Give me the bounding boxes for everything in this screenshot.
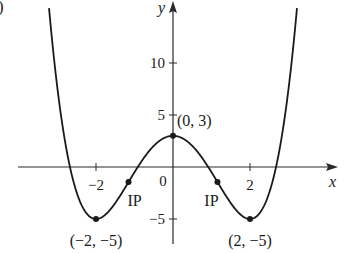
- point-marker: [126, 179, 132, 185]
- point-label: IP: [127, 192, 141, 209]
- x-axis-label: x: [328, 173, 336, 190]
- panel-label: ): [0, 0, 4, 16]
- origin-label: 0: [159, 173, 167, 189]
- point-label: (0, 3): [177, 112, 212, 130]
- point-label: (2, −5): [228, 232, 272, 250]
- x-tick-label: 2: [246, 177, 254, 193]
- y-tick-label: −5: [149, 211, 165, 227]
- point-label: IP: [204, 192, 218, 209]
- point-label: (−2, −5): [70, 232, 123, 250]
- x-tick-label: −2: [88, 177, 104, 193]
- point-marker: [214, 179, 220, 185]
- y-axis-label: y: [156, 0, 166, 17]
- function-graph: ) xy −22105−50 (0, 3)(−2, −5)(2, −5)IPIP: [0, 0, 344, 253]
- point-marker: [170, 133, 176, 139]
- y-tick-label: 10: [150, 55, 165, 71]
- y-tick-label: 5: [158, 107, 166, 123]
- point-marker: [247, 216, 253, 222]
- point-marker: [93, 216, 99, 222]
